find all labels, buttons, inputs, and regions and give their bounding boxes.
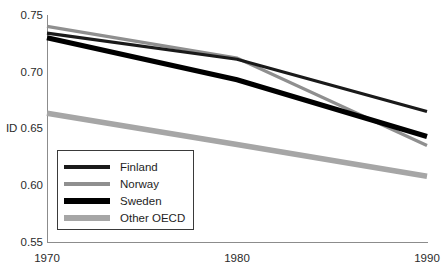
plot-area: [0, 0, 445, 280]
legend-swatch-other-oecd: [64, 215, 110, 221]
legend-swatch-sweden: [64, 198, 110, 204]
series-line-norway: [47, 26, 427, 145]
legend-label: Finland: [120, 161, 158, 173]
line-chart: 0.75 0.70 ID 0.65 0.60 0.55 1970 1980 19…: [0, 0, 445, 280]
legend-item-norway: Norway: [58, 175, 193, 192]
legend-label: Norway: [120, 178, 159, 190]
legend-item-other-oecd: Other OECD: [58, 209, 193, 226]
legend-item-sweden: Sweden: [58, 192, 193, 209]
legend-swatch-finland: [64, 165, 110, 169]
legend-swatch-norway: [64, 182, 110, 186]
legend-label: Sweden: [120, 195, 162, 207]
legend-label: Other OECD: [120, 212, 185, 224]
series-line-finland: [47, 33, 427, 111]
legend: Finland Norway Sweden Other OECD: [57, 150, 194, 230]
legend-item-finland: Finland: [58, 158, 193, 175]
